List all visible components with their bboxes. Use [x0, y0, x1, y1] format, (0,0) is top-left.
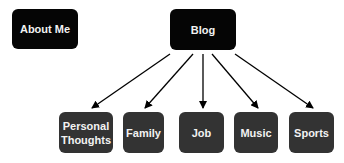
node-label: Family — [126, 126, 161, 140]
node-label: Personal Thoughts — [59, 119, 113, 147]
node-label: Job — [192, 126, 212, 140]
edge-blog-personal-thoughts — [92, 54, 170, 108]
edge-blog-music — [212, 54, 258, 108]
edge-blog-sports — [235, 54, 313, 108]
node-blog[interactable]: Blog — [170, 9, 236, 50]
edge-blog-family — [145, 54, 193, 108]
node-sports[interactable]: Sports — [289, 112, 334, 153]
node-label: Blog — [191, 23, 215, 37]
node-job[interactable]: Job — [179, 112, 224, 153]
node-label: Sports — [294, 126, 329, 140]
node-label: About Me — [20, 22, 70, 36]
node-about-me[interactable]: About Me — [12, 9, 78, 49]
node-family[interactable]: Family — [123, 112, 164, 153]
node-music[interactable]: Music — [234, 112, 278, 153]
node-personal-thoughts[interactable]: Personal Thoughts — [59, 112, 113, 153]
node-label: Music — [240, 126, 271, 140]
